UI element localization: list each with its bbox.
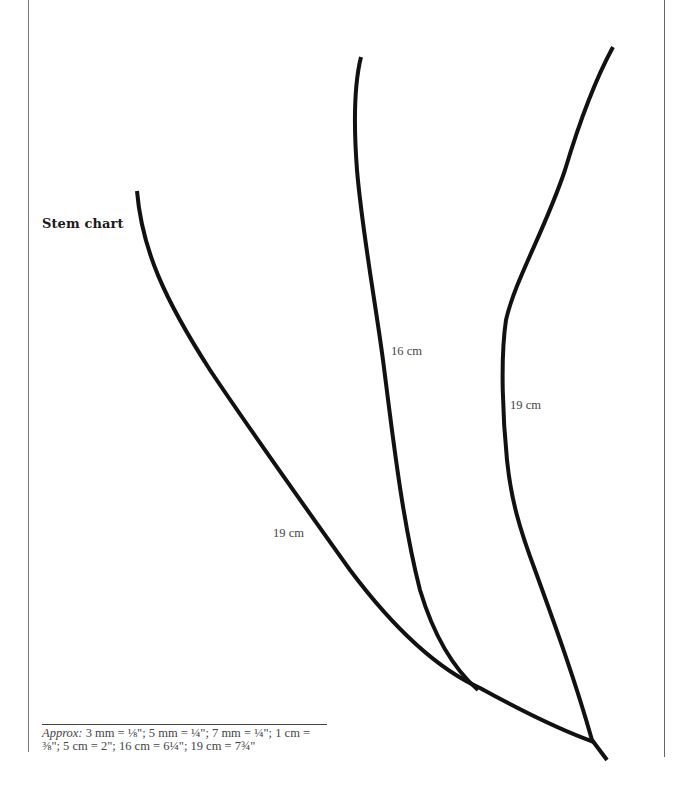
measurement-caption: Approx: 3 mm = ⅛"; 5 mm = ¼"; 7 mm = ¼";… [42, 727, 334, 753]
stem-label-left: 19 cm [273, 526, 304, 541]
stem-middle [355, 57, 478, 690]
stem-left [137, 191, 594, 742]
caption-lead: Approx: [42, 726, 83, 740]
caption-divider [42, 724, 327, 725]
caption-line-1: 3 mm = ⅛"; 5 mm = ¼"; 7 mm = ¼"; 1 cm = [83, 726, 311, 740]
stem-diagram [0, 0, 691, 797]
stem-label-right: 19 cm [510, 398, 541, 413]
stem-label-middle: 16 cm [391, 344, 422, 359]
caption-line-2: ⅜"; 5 cm = 2"; 16 cm = 6¼"; 19 cm = 7¾" [42, 739, 255, 753]
